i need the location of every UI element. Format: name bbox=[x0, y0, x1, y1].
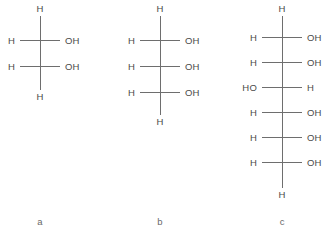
structure-caption-c: c bbox=[280, 217, 285, 227]
substituent-right: OH bbox=[307, 108, 322, 118]
substituent-left: H bbox=[250, 33, 257, 43]
substituent-right: H bbox=[307, 83, 314, 93]
bond-right bbox=[160, 66, 180, 67]
terminal-atom-bottom: H bbox=[36, 92, 43, 102]
substituent-left: HO bbox=[242, 83, 257, 93]
bond-right bbox=[40, 66, 60, 67]
bond-left bbox=[262, 37, 282, 38]
substituent-right: OH bbox=[185, 62, 200, 72]
carbon-backbone bbox=[40, 16, 41, 90]
substituent-left: H bbox=[250, 133, 257, 143]
substituent-left: H bbox=[128, 62, 135, 72]
bond-left bbox=[262, 87, 282, 88]
substituent-left: H bbox=[250, 108, 257, 118]
bond-left bbox=[262, 162, 282, 163]
substituent-right: OH bbox=[185, 88, 200, 98]
substituent-left: H bbox=[8, 36, 15, 46]
terminal-atom-top: H bbox=[36, 4, 43, 14]
terminal-atom-bottom: H bbox=[156, 117, 163, 127]
bond-right bbox=[282, 37, 302, 38]
bond-left bbox=[20, 66, 40, 67]
substituent-right: OH bbox=[185, 36, 200, 46]
chemical-structure-figure: HHHOHHOHaHHHOHHOHHOHbHHHOHHOHHOHHOHHOHHO… bbox=[0, 0, 329, 238]
substituent-left: H bbox=[128, 88, 135, 98]
substituent-left: H bbox=[250, 58, 257, 68]
bond-left bbox=[262, 62, 282, 63]
bond-right bbox=[282, 137, 302, 138]
bond-left bbox=[262, 137, 282, 138]
bond-right bbox=[160, 92, 180, 93]
bond-left bbox=[140, 92, 160, 93]
substituent-right: OH bbox=[307, 158, 322, 168]
terminal-atom-bottom: H bbox=[278, 190, 285, 200]
bond-right bbox=[282, 112, 302, 113]
substituent-right: OH bbox=[307, 133, 322, 143]
structure-caption-a: a bbox=[37, 217, 42, 227]
bond-right bbox=[40, 40, 60, 41]
substituent-left: H bbox=[128, 36, 135, 46]
bond-left bbox=[20, 40, 40, 41]
bond-left bbox=[140, 66, 160, 67]
bond-right bbox=[282, 87, 302, 88]
bond-left bbox=[140, 40, 160, 41]
structure-caption-b: b bbox=[157, 217, 162, 227]
substituent-left: H bbox=[8, 62, 15, 72]
bond-right bbox=[160, 40, 180, 41]
substituent-right: OH bbox=[65, 36, 80, 46]
bond-right bbox=[282, 62, 302, 63]
substituent-right: OH bbox=[65, 62, 80, 72]
substituent-right: OH bbox=[307, 33, 322, 43]
substituent-right: OH bbox=[307, 58, 322, 68]
bond-left bbox=[262, 112, 282, 113]
terminal-atom-top: H bbox=[156, 4, 163, 14]
substituent-left: H bbox=[250, 158, 257, 168]
bond-right bbox=[282, 162, 302, 163]
terminal-atom-top: H bbox=[278, 4, 285, 14]
